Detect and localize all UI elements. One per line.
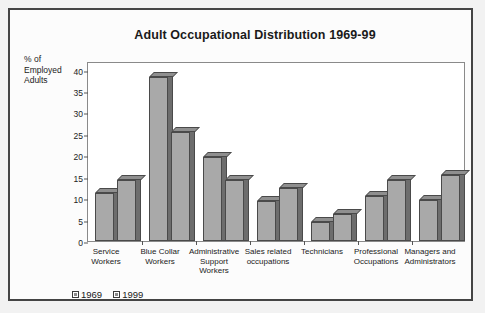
- bar-group: [358, 63, 412, 241]
- bar-front-face: [365, 196, 384, 241]
- category-label-line: Professional: [349, 247, 403, 257]
- legend-swatch-icon: [72, 291, 79, 298]
- bar-1999: [387, 180, 406, 241]
- bar-front-face: [171, 132, 190, 241]
- x-axis-category-label: Technicians: [295, 247, 349, 257]
- x-axis-tick-mark: [358, 241, 359, 245]
- category-label-line: Administrators: [403, 257, 457, 267]
- bar-front-face: [279, 188, 298, 241]
- y-axis-tick-mark: [84, 243, 88, 244]
- x-axis-tick-mark: [250, 241, 251, 245]
- bar-front-face: [257, 201, 276, 241]
- legend-label: 1969: [81, 289, 102, 300]
- bar-front-face: [333, 214, 352, 241]
- bar-top-face: [149, 72, 178, 77]
- x-axis-category-label: ProfessionalOccupations: [349, 247, 403, 266]
- bar-group: [304, 63, 358, 241]
- legend-item-1969[interactable]: 1969: [72, 289, 102, 300]
- category-label-line: Occupations: [349, 257, 403, 267]
- bar-front-face: [419, 200, 438, 241]
- bar-front-face: [387, 180, 406, 241]
- bar-1999: [225, 180, 244, 241]
- category-label-line: Administrative: [187, 247, 241, 257]
- x-axis-tick-mark: [142, 241, 143, 245]
- category-label-line: Workers: [79, 257, 133, 267]
- chart-frame: Adult Occupational Distribution 1969-99 …: [8, 8, 473, 301]
- bar-front-face: [203, 157, 222, 241]
- bar-1969: [149, 77, 168, 241]
- bar-1999: [279, 188, 298, 241]
- legend-label: 1999: [122, 289, 143, 300]
- bar-1969: [257, 201, 276, 241]
- bar-1969: [419, 200, 438, 241]
- category-label-line: occupations: [241, 257, 295, 267]
- category-label-line: Blue Collar: [133, 247, 187, 257]
- bar-side-face: [406, 175, 411, 241]
- bar-front-face: [441, 175, 460, 241]
- bar-1999: [441, 175, 460, 241]
- bar-top-face: [441, 170, 470, 175]
- category-label-line: Workers: [133, 257, 187, 267]
- bar-front-face: [149, 77, 168, 241]
- x-axis-tick-mark: [412, 241, 413, 245]
- x-axis-category-label: ServiceWorkers: [79, 247, 133, 266]
- bar-side-face: [244, 175, 249, 241]
- bar-top-face: [203, 152, 232, 157]
- bar-front-face: [117, 180, 136, 241]
- x-axis-category-label: AdministrativeSupportWorkers: [187, 247, 241, 276]
- legend-swatch-icon: [113, 291, 120, 298]
- bar-1969: [311, 222, 330, 241]
- bar-front-face: [311, 222, 330, 241]
- y-axis-label: % of Employed Adults: [24, 54, 80, 86]
- bar-side-face: [460, 170, 465, 241]
- bar-group: [250, 63, 304, 241]
- category-label-line: Support: [187, 257, 241, 267]
- legend: 19691999: [72, 289, 143, 300]
- chart-page: Adult Occupational Distribution 1969-99 …: [0, 0, 485, 313]
- bar-1969: [203, 157, 222, 241]
- category-label-line: Managers and: [403, 247, 457, 257]
- bar-front-face: [225, 180, 244, 241]
- bar-side-face: [136, 175, 141, 241]
- category-label-line: Sales related: [241, 247, 295, 257]
- x-axis-category-label: Managers andAdministrators: [403, 247, 457, 266]
- category-label-line: Workers: [187, 266, 241, 276]
- bar-1999: [333, 214, 352, 241]
- bar-1999: [171, 132, 190, 241]
- bar-group: [412, 63, 466, 241]
- bar-group: [196, 63, 250, 241]
- category-label-line: Technicians: [295, 247, 349, 257]
- bar-group: [142, 63, 196, 241]
- legend-item-1999[interactable]: 1999: [113, 289, 143, 300]
- bar-1969: [365, 196, 384, 241]
- bar-1999: [117, 180, 136, 241]
- category-label-line: Service: [79, 247, 133, 257]
- x-axis-category-label: Sales relatedoccupations: [241, 247, 295, 266]
- bar-side-face: [352, 209, 357, 241]
- plot-area: 0510152025303540: [87, 62, 465, 242]
- bar-1969: [95, 193, 114, 241]
- plot-inner: 0510152025303540: [88, 63, 464, 241]
- page-title: Adult Occupational Distribution 1969-99: [70, 28, 440, 42]
- x-axis-tick-mark: [304, 241, 305, 245]
- bar-side-face: [298, 183, 303, 241]
- bar-front-face: [95, 193, 114, 241]
- bar-side-face: [190, 127, 195, 241]
- x-axis-tick-mark: [196, 241, 197, 245]
- bar-group: [88, 63, 142, 241]
- x-axis-category-label: Blue CollarWorkers: [133, 247, 187, 266]
